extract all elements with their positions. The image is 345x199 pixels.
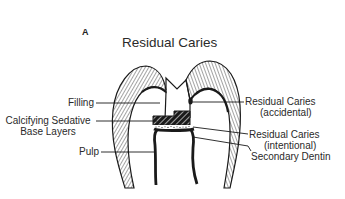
label-base-layers-line1: Calcifying Sedative xyxy=(0,116,96,126)
pulp-chamber-walls xyxy=(154,129,197,185)
label-residual-intentional-line2: (intentional) xyxy=(264,141,320,151)
label-residual-caries-accidental: Residual Caries (accidental) xyxy=(245,97,316,118)
residual-caries-intentional-band xyxy=(153,125,193,129)
label-residual-intentional-line1: Residual Caries xyxy=(249,130,320,140)
label-residual-caries-intentional: Residual Caries (intentional) xyxy=(249,130,320,151)
base-layers-block xyxy=(153,111,190,125)
label-filling: Filling xyxy=(60,98,94,108)
label-filling-text: Filling xyxy=(68,97,94,108)
label-secondary-dentin-text: Secondary Dentin xyxy=(251,151,331,162)
label-residual-accidental-line2: (accidental) xyxy=(260,108,316,118)
occlusal-outline xyxy=(166,78,190,100)
leader-lines-right xyxy=(192,102,251,151)
label-residual-accidental-line1: Residual Caries xyxy=(245,97,316,107)
residual-caries-accidental-spot xyxy=(188,98,192,105)
label-base-layers-line2: Base Layers xyxy=(0,127,96,137)
dentin-border-left xyxy=(142,87,166,120)
label-pulp: Pulp xyxy=(70,147,99,157)
label-base-layers: Calcifying Sedative Base Layers xyxy=(0,116,96,137)
label-pulp-text: Pulp xyxy=(79,146,99,157)
label-secondary-dentin: Secondary Dentin xyxy=(251,152,331,162)
